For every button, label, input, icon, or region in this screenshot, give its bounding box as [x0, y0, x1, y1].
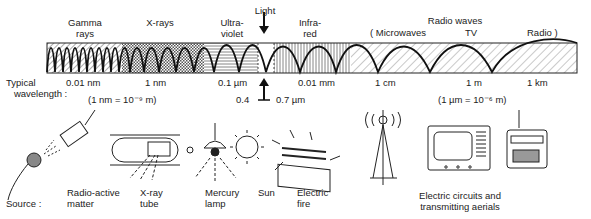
label-radio: Radio ) [527, 27, 558, 38]
label-light: Light [248, 5, 282, 16]
television-icon [428, 126, 490, 170]
radio-icon [507, 110, 547, 168]
label-microwaves: ( Microwaves [370, 27, 426, 38]
light-range-low: 0.4 [236, 94, 249, 105]
transmitter-tower-icon [366, 110, 401, 185]
xray-tube-icon [110, 135, 193, 180]
label-xrays: X-rays [135, 17, 185, 28]
typical-label: Typical wavelength : [6, 77, 67, 99]
um-note: (1 µm = 10⁻⁶ m) [438, 94, 507, 105]
source-mercury-lamp: Mercurylamp [205, 187, 239, 209]
source-label: Source : [6, 198, 41, 209]
light-range-high: 0.7 µm [276, 94, 305, 105]
label-infrared: Infra-red [290, 17, 330, 39]
electric-fire-icon [272, 130, 340, 192]
wl-infrared: 0.01 mm [298, 77, 335, 88]
label-ultraviolet: Ultra-violet [212, 17, 252, 39]
source-radioactive: Radio-activematter [67, 187, 120, 209]
source-electric-fire: Electricfire [297, 187, 328, 209]
sun-icon [230, 130, 264, 164]
source-circuits: Electric circuits andtransmitting aerial… [410, 190, 510, 212]
wl-microwaves: 1 cm [375, 77, 396, 88]
wl-radio: 1 km [527, 77, 548, 88]
wl-gamma: 0.01 nm [66, 77, 100, 88]
wl-xrays: 1 nm [145, 77, 166, 88]
source-xray-tube: X-raytube [140, 187, 163, 209]
wl-uv: 0.1 µm [218, 77, 247, 88]
label-tv: TV [465, 27, 477, 38]
source-sun: Sun [258, 187, 275, 198]
label-radio-waves: Radio waves [415, 15, 495, 26]
nm-note: (1 nm = 10⁻⁹ m) [88, 94, 156, 105]
mercury-lamp-icon [195, 123, 236, 182]
label-gamma: Gammarays [60, 17, 110, 39]
spectrum-bar [47, 39, 577, 73]
wl-tv: 1 m [466, 77, 482, 88]
